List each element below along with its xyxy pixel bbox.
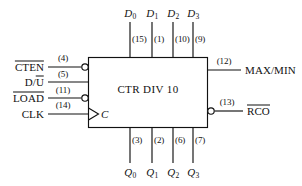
pin-number-cten: (4) — [58, 54, 68, 63]
pin-number-load: (11) — [56, 86, 70, 95]
pin-number-d2: (10) — [175, 35, 190, 44]
pin-number-clk: (14) — [56, 101, 71, 110]
signal-label-cten: CTEN — [15, 62, 44, 73]
bubble-cten — [82, 64, 88, 70]
bus-label-d2: D2 — [167, 8, 179, 19]
pin-number-q1: (2) — [154, 136, 164, 145]
bus-label-q1: Q1 — [146, 167, 158, 178]
pin-number-d3: (9) — [195, 35, 205, 44]
pin-number-max-min: (12) — [217, 57, 232, 66]
pin-number-d-updown: (5) — [58, 70, 68, 79]
pin-number-d0: (15) — [132, 35, 147, 44]
pin-number-q0: (3) — [132, 136, 142, 145]
bus-label-d0: D0 — [124, 8, 136, 19]
bus-label-q2: Q2 — [167, 167, 179, 178]
pin-number-q3: (7) — [195, 136, 205, 145]
bus-label-q3: Q3 — [187, 167, 199, 178]
clock-dynamic-triangle — [89, 108, 99, 120]
signal-label-d-updown: D/U — [25, 77, 44, 88]
bus-label-q0: Q0 — [124, 167, 136, 178]
signal-label-rco: RCO — [247, 106, 270, 117]
bubble-load — [82, 95, 88, 101]
pin-number-q2: (6) — [175, 136, 185, 145]
signal-label-clk: CLK — [22, 109, 44, 120]
signal-label-max-min: MAX/MIN — [245, 65, 296, 76]
bus-label-d3: D3 — [187, 8, 199, 19]
signal-label-load: LOAD — [13, 93, 44, 104]
pin-number-rco: (13) — [220, 98, 235, 107]
pin-number-d1: (1) — [154, 35, 164, 44]
device-title: CTR DIV 10 — [117, 84, 178, 95]
bubble-rco — [208, 108, 214, 114]
bus-label-d1: D1 — [146, 8, 158, 19]
clock-input-letter: C — [101, 109, 108, 120]
logic-symbol-diagram: D0 D1 D2 D3 (15) (1) (10) (9) CTEN D/U L… — [0, 0, 302, 186]
